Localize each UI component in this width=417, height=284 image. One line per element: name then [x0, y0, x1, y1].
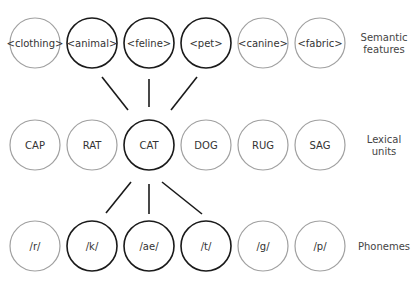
node: /r/ — [10, 221, 60, 271]
node: SAG — [295, 120, 345, 170]
node-label: /p/ — [313, 241, 327, 252]
node-label: <animal> — [67, 38, 118, 49]
node: CAP — [10, 120, 60, 170]
row-label: Phonemes — [358, 241, 410, 252]
node: /g/ — [238, 221, 288, 271]
node: RAT — [67, 120, 117, 170]
row-lexical-units: CAPRATCATDOGRUGSAGLexicalunits — [10, 120, 401, 170]
node-label: /k/ — [86, 241, 99, 252]
row-semantic-features: <clothing><animal><feline><pet><canine><… — [7, 18, 408, 68]
line-pet-cat — [171, 77, 197, 110]
node-label: RAT — [83, 140, 103, 151]
node: <animal> — [67, 18, 118, 68]
node: /t/ — [181, 221, 231, 271]
line-cat-t — [162, 182, 202, 214]
row-label: Lexical — [367, 134, 401, 145]
node: /k/ — [67, 221, 117, 271]
node: /p/ — [295, 221, 345, 271]
node: <fabric> — [295, 18, 345, 68]
node-label: RUG — [252, 140, 274, 151]
node: <pet> — [181, 18, 231, 68]
node-label: <feline> — [127, 38, 171, 49]
node: CAT — [124, 120, 174, 170]
node: <canine> — [238, 18, 288, 68]
node-label: <canine> — [238, 38, 288, 49]
node-label: /r/ — [30, 241, 41, 252]
node: <feline> — [124, 18, 174, 68]
node: <clothing> — [7, 18, 64, 68]
node: /ae/ — [124, 221, 174, 271]
node-label: <fabric> — [297, 38, 342, 49]
node-label: CAT — [139, 140, 159, 151]
node-label: /t/ — [201, 241, 212, 252]
line-cat-k — [106, 182, 131, 213]
row-label: features — [363, 44, 404, 55]
row-label: units — [372, 146, 397, 157]
node-label: DOG — [194, 140, 217, 151]
node: RUG — [238, 120, 288, 170]
row-label: Semantic — [361, 32, 408, 43]
node-label: CAP — [25, 140, 45, 151]
network-diagram: <clothing><animal><feline><pet><canine><… — [0, 0, 417, 284]
node-label: <pet> — [189, 38, 222, 49]
node: DOG — [181, 120, 231, 170]
row-phonemes: /r//k//ae//t//g//p/Phonemes — [10, 221, 410, 271]
node-label: SAG — [310, 140, 331, 151]
node-label: /ae/ — [139, 241, 159, 252]
node-label: /g/ — [256, 241, 270, 252]
line-animal-cat — [102, 77, 128, 110]
node-label: <clothing> — [7, 38, 64, 49]
